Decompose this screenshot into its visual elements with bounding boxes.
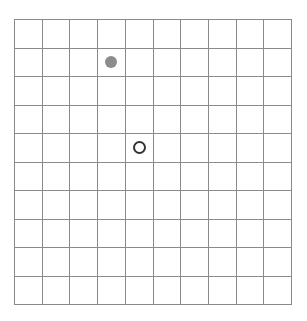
grid-cell-r7-c6[interactable]	[181, 220, 209, 249]
grid-cell-r8-c1[interactable]	[43, 248, 71, 277]
grid-cell-r8-c7[interactable]	[209, 248, 237, 277]
grid-cell-r2-c5[interactable]	[154, 77, 182, 106]
grid-cell-r0-c0[interactable]	[15, 20, 43, 49]
grid-cell-r7-c3[interactable]	[98, 220, 126, 249]
grid-cell-r6-c3[interactable]	[98, 191, 126, 220]
grid-cell-r4-c2[interactable]	[70, 134, 98, 163]
grid-cell-r9-c1[interactable]	[43, 277, 71, 306]
grid-cell-r7-c7[interactable]	[209, 220, 237, 249]
grid-cell-r6-c2[interactable]	[70, 191, 98, 220]
grid-cell-r5-c0[interactable]	[15, 163, 43, 192]
grid-cell-r8-c6[interactable]	[181, 248, 209, 277]
grid-cell-r2-c6[interactable]	[181, 77, 209, 106]
grid-cell-r8-c5[interactable]	[154, 248, 182, 277]
grid-cell-r0-c4[interactable]	[126, 20, 154, 49]
grid-cell-r5-c4[interactable]	[126, 163, 154, 192]
grid-cell-r0-c2[interactable]	[70, 20, 98, 49]
grid-cell-r8-c0[interactable]	[15, 248, 43, 277]
grid-cell-r3-c4[interactable]	[126, 106, 154, 135]
grid-cell-r3-c5[interactable]	[154, 106, 182, 135]
grid-cell-r4-c1[interactable]	[43, 134, 71, 163]
grid-cell-r1-c1[interactable]	[43, 49, 71, 78]
grid-cell-r3-c9[interactable]	[264, 106, 292, 135]
grid-cell-r6-c9[interactable]	[264, 191, 292, 220]
grid-cell-r3-c3[interactable]	[98, 106, 126, 135]
grid-cell-r8-c2[interactable]	[70, 248, 98, 277]
grid-cell-r0-c6[interactable]	[181, 20, 209, 49]
grid-cell-r4-c5[interactable]	[154, 134, 182, 163]
grid-cell-r0-c8[interactable]	[237, 20, 265, 49]
grid-cell-r0-c9[interactable]	[264, 20, 292, 49]
grid-cell-r1-c9[interactable]	[264, 49, 292, 78]
grid-cell-r5-c9[interactable]	[264, 163, 292, 192]
grid-cell-r5-c6[interactable]	[181, 163, 209, 192]
grid-cell-r3-c2[interactable]	[70, 106, 98, 135]
grid-cell-r5-c5[interactable]	[154, 163, 182, 192]
grid-cell-r9-c9[interactable]	[264, 277, 292, 306]
grid-cell-r5-c3[interactable]	[98, 163, 126, 192]
grid-cell-r6-c1[interactable]	[43, 191, 71, 220]
grid-cell-r4-c7[interactable]	[209, 134, 237, 163]
grid-cell-r1-c8[interactable]	[237, 49, 265, 78]
grid-cell-r0-c7[interactable]	[209, 20, 237, 49]
grid-cell-r5-c7[interactable]	[209, 163, 237, 192]
grid-cell-r9-c7[interactable]	[209, 277, 237, 306]
grid-cell-r7-c1[interactable]	[43, 220, 71, 249]
grid-cell-r7-c4[interactable]	[126, 220, 154, 249]
grid-cell-r9-c4[interactable]	[126, 277, 154, 306]
grid-cell-r5-c1[interactable]	[43, 163, 71, 192]
grid-cell-r2-c1[interactable]	[43, 77, 71, 106]
grid-cell-r7-c8[interactable]	[237, 220, 265, 249]
grid-cell-r1-c0[interactable]	[15, 49, 43, 78]
grid-cell-r0-c1[interactable]	[43, 20, 71, 49]
grid-cell-r0-c5[interactable]	[154, 20, 182, 49]
grid-cell-r1-c6[interactable]	[181, 49, 209, 78]
grid-cell-r2-c9[interactable]	[264, 77, 292, 106]
grid-cell-r4-c3[interactable]	[98, 134, 126, 163]
grid-cell-r9-c0[interactable]	[15, 277, 43, 306]
grid-cell-r3-c6[interactable]	[181, 106, 209, 135]
grid-cell-r2-c7[interactable]	[209, 77, 237, 106]
grid-cell-r2-c4[interactable]	[126, 77, 154, 106]
grid-cell-r2-c3[interactable]	[98, 77, 126, 106]
grid-cell-r9-c3[interactable]	[98, 277, 126, 306]
grid-cell-r3-c0[interactable]	[15, 106, 43, 135]
grid-cell-r1-c3[interactable]	[98, 49, 126, 78]
grid-cell-r6-c6[interactable]	[181, 191, 209, 220]
grid-cell-r4-c0[interactable]	[15, 134, 43, 163]
grid-cell-r9-c6[interactable]	[181, 277, 209, 306]
grid-cell-r3-c7[interactable]	[209, 106, 237, 135]
grid-cell-r1-c7[interactable]	[209, 49, 237, 78]
grid-cell-r4-c8[interactable]	[237, 134, 265, 163]
hollow-circle-icon[interactable]	[133, 141, 146, 154]
filled-gray-dot-icon[interactable]	[105, 56, 117, 68]
grid-cell-r7-c2[interactable]	[70, 220, 98, 249]
grid-cell-r7-c9[interactable]	[264, 220, 292, 249]
grid-cell-r7-c0[interactable]	[15, 220, 43, 249]
grid-cell-r8-c4[interactable]	[126, 248, 154, 277]
grid-cell-r1-c5[interactable]	[154, 49, 182, 78]
grid-cell-r4-c4[interactable]	[126, 134, 154, 163]
grid-cell-r4-c9[interactable]	[264, 134, 292, 163]
grid-cell-r2-c0[interactable]	[15, 77, 43, 106]
grid-cell-r9-c2[interactable]	[70, 277, 98, 306]
grid-cell-r8-c9[interactable]	[264, 248, 292, 277]
grid-cell-r6-c4[interactable]	[126, 191, 154, 220]
grid-cell-r7-c5[interactable]	[154, 220, 182, 249]
grid-cell-r3-c8[interactable]	[237, 106, 265, 135]
grid-cell-r5-c8[interactable]	[237, 163, 265, 192]
grid-cell-r4-c6[interactable]	[181, 134, 209, 163]
grid-cell-r2-c8[interactable]	[237, 77, 265, 106]
grid-cell-r1-c2[interactable]	[70, 49, 98, 78]
grid-cell-r6-c0[interactable]	[15, 191, 43, 220]
grid-cell-r6-c8[interactable]	[237, 191, 265, 220]
grid-cell-r6-c7[interactable]	[209, 191, 237, 220]
grid-cell-r6-c5[interactable]	[154, 191, 182, 220]
grid-cell-r8-c3[interactable]	[98, 248, 126, 277]
grid-cell-r9-c8[interactable]	[237, 277, 265, 306]
grid-cell-r5-c2[interactable]	[70, 163, 98, 192]
grid-cell-r0-c3[interactable]	[98, 20, 126, 49]
grid-cell-r3-c1[interactable]	[43, 106, 71, 135]
grid-cell-r2-c2[interactable]	[70, 77, 98, 106]
grid-cell-r8-c8[interactable]	[237, 248, 265, 277]
